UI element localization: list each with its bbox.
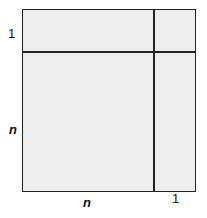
outer-square [22, 9, 196, 192]
label-bottom-middle: n [83, 196, 91, 209]
label-left-middle: n [9, 123, 17, 136]
vertical-divider [153, 9, 155, 192]
horizontal-divider [22, 51, 196, 53]
label-left-top: 1 [8, 27, 15, 40]
label-bottom-right: 1 [172, 192, 179, 205]
